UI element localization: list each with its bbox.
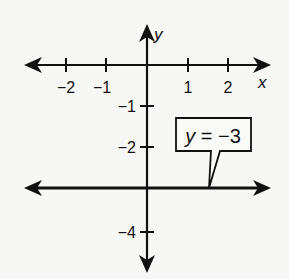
x-tick-label: −2 [57,79,75,96]
y-axis-label: y [153,25,164,44]
y-axis: −1 −2 −4 y [118,24,164,273]
x-axis-label: x [257,73,267,92]
coordinate-plane: −2 −1 1 2 x −1 −2 −4 y y = −3 [0,0,289,279]
equation-callout: y = −3 [176,118,251,188]
callout-text: y = −3 [183,125,241,147]
y-tick-label: −4 [118,224,136,241]
x-tick-label: 2 [224,79,233,96]
callout-eq: = −3 [195,125,241,147]
y-tick-label: −1 [118,98,136,115]
y-tick-label: −2 [118,139,136,156]
x-tick-label: −1 [93,79,111,96]
x-tick-label: 1 [184,79,193,96]
